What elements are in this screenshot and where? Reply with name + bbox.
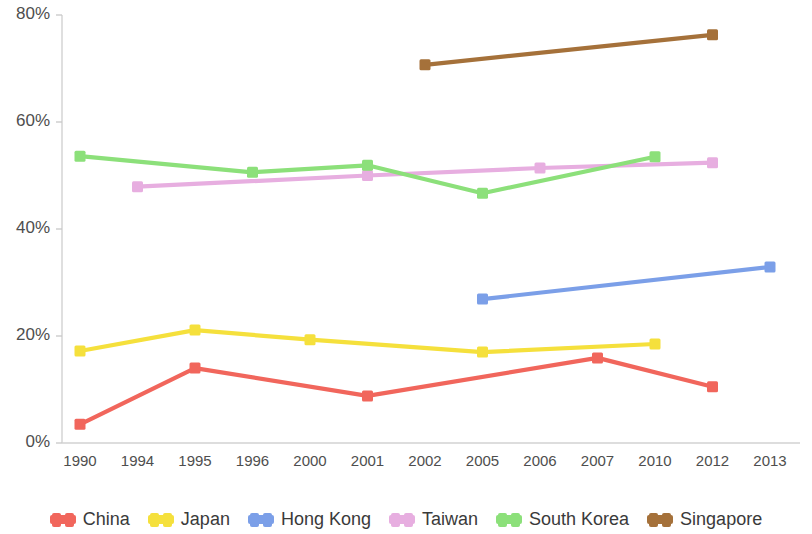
x-tick-label: 1994 <box>121 452 154 469</box>
legend-swatch-icon <box>496 515 522 524</box>
y-tick-label: 80% <box>16 4 50 23</box>
data-point-marker <box>650 339 661 350</box>
legend-swatch-icon <box>148 515 174 524</box>
data-point-marker <box>75 419 86 430</box>
legend-item-hong-kong[interactable]: Hong Kong <box>248 509 371 530</box>
x-tick-label: 2012 <box>696 452 729 469</box>
legend-label: China <box>83 509 130 530</box>
x-tick-label: 2002 <box>408 452 441 469</box>
legend-label: South Korea <box>529 509 629 530</box>
legend-swatch-icon <box>389 515 415 524</box>
chart-legend: ChinaJapanHong KongTaiwanSouth KoreaSing… <box>0 509 812 530</box>
series-singapore <box>420 29 719 70</box>
data-point-marker <box>535 163 546 174</box>
data-point-marker <box>190 363 201 374</box>
data-point-marker <box>190 325 201 336</box>
x-tick-label: 2006 <box>523 452 556 469</box>
line-chart: 0%20%40%60%80%19901994199519962000200120… <box>0 0 812 534</box>
y-tick-label: 60% <box>16 111 50 130</box>
x-tick-label: 1990 <box>63 452 96 469</box>
series-line <box>80 358 713 424</box>
data-point-marker <box>362 390 373 401</box>
x-tick-label: 2001 <box>351 452 384 469</box>
data-point-marker <box>132 181 143 192</box>
series-hong-kong <box>477 262 776 305</box>
data-point-marker <box>362 160 373 171</box>
x-tick-label: 1996 <box>236 452 269 469</box>
data-point-marker <box>362 170 373 181</box>
data-point-marker <box>477 188 488 199</box>
series-line <box>138 163 713 187</box>
legend-swatch-icon <box>248 515 274 524</box>
x-tick-label: 2013 <box>753 452 786 469</box>
data-point-marker <box>707 381 718 392</box>
series-line <box>483 267 771 299</box>
data-point-marker <box>592 352 603 363</box>
series-china <box>75 352 719 429</box>
y-tick-label: 0% <box>25 432 50 451</box>
x-tick-label: 2000 <box>293 452 326 469</box>
data-point-marker <box>420 59 431 70</box>
legend-item-south-korea[interactable]: South Korea <box>496 509 629 530</box>
data-point-marker <box>75 346 86 357</box>
data-point-marker <box>247 167 258 178</box>
y-tick-label: 20% <box>16 325 50 344</box>
series-line <box>425 35 713 65</box>
y-tick-label: 40% <box>16 218 50 237</box>
x-tick-label: 2010 <box>638 452 671 469</box>
legend-item-china[interactable]: China <box>50 509 130 530</box>
legend-item-japan[interactable]: Japan <box>148 509 230 530</box>
legend-swatch-icon <box>647 515 673 524</box>
series-line <box>80 330 655 352</box>
data-point-marker <box>305 334 316 345</box>
series-japan <box>75 325 661 358</box>
legend-label: Singapore <box>680 509 762 530</box>
data-point-marker <box>650 151 661 162</box>
legend-swatch-icon <box>50 515 76 524</box>
data-point-marker <box>75 151 86 162</box>
legend-label: Japan <box>181 509 230 530</box>
data-point-marker <box>765 262 776 273</box>
legend-item-taiwan[interactable]: Taiwan <box>389 509 478 530</box>
data-point-marker <box>477 294 488 305</box>
legend-label: Hong Kong <box>281 509 371 530</box>
x-tick-label: 2005 <box>466 452 499 469</box>
x-tick-label: 1995 <box>178 452 211 469</box>
data-point-marker <box>707 157 718 168</box>
x-tick-label: 2007 <box>581 452 614 469</box>
chart-plot-area: 0%20%40%60%80%19901994199519962000200120… <box>0 0 812 500</box>
data-point-marker <box>707 29 718 40</box>
legend-label: Taiwan <box>422 509 478 530</box>
legend-item-singapore[interactable]: Singapore <box>647 509 762 530</box>
data-point-marker <box>477 347 488 358</box>
